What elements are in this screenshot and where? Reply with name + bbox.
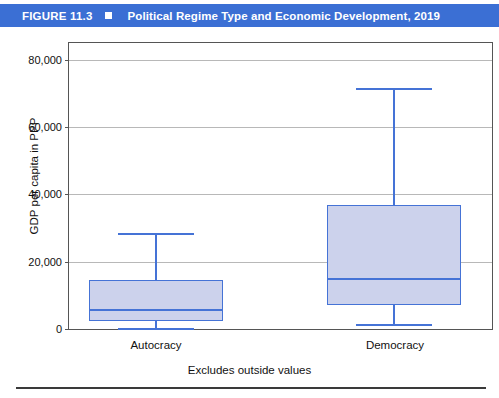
gridline — [69, 60, 492, 61]
chart-region: GDP per capita in PPP 020,00040,00060,00… — [0, 27, 499, 398]
y-axis-title: GDP per capita in PPP — [28, 76, 40, 276]
y-tick-mark — [65, 194, 69, 195]
whisker-upper-cap — [356, 88, 432, 90]
gridline — [69, 127, 492, 128]
y-tick-label: 0 — [56, 324, 62, 335]
figure-title-bar: FIGURE 11.3 Political Regime Type and Ec… — [0, 4, 499, 27]
plot-area: 020,00040,00060,00080,000 — [68, 42, 493, 330]
whisker-upper-stem — [393, 88, 395, 205]
x-axis-caption: Excludes outside values — [0, 364, 499, 376]
square-bullet-icon — [105, 12, 112, 19]
median-line-autocracy — [89, 309, 223, 311]
whisker-lower-stem — [155, 321, 157, 328]
y-tick-mark — [65, 329, 69, 330]
whisker-lower-cap — [118, 328, 194, 330]
y-tick-label: 20,000 — [28, 256, 62, 267]
y-tick-mark — [65, 262, 69, 263]
x-tick-label-democracy: Democracy — [366, 339, 424, 351]
x-tick-label-autocracy: Autocracy — [130, 339, 181, 351]
median-line-democracy — [327, 278, 461, 280]
footer-rule — [16, 387, 486, 389]
gridline — [69, 194, 492, 195]
whisker-upper-cap — [118, 233, 194, 235]
y-tick-label: 60,000 — [28, 122, 62, 133]
y-tick-label: 80,000 — [28, 54, 62, 65]
y-tick-mark — [65, 127, 69, 128]
figure-caption: Political Regime Type and Economic Devel… — [128, 10, 440, 22]
box-democracy — [327, 205, 461, 305]
y-tick-label: 40,000 — [28, 189, 62, 200]
box-autocracy — [89, 280, 223, 321]
whisker-lower-cap — [356, 324, 432, 326]
y-tick-mark — [65, 60, 69, 61]
figure-number: FIGURE 11.3 — [22, 10, 93, 22]
whisker-lower-stem — [393, 305, 395, 324]
whisker-upper-stem — [155, 233, 157, 279]
